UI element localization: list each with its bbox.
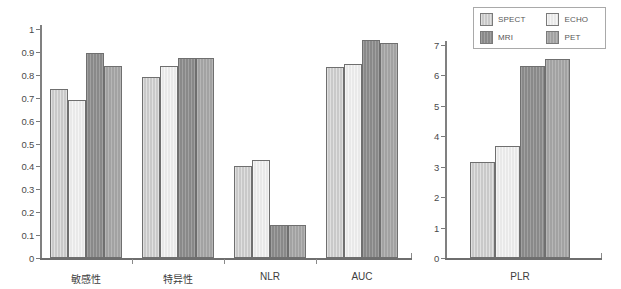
bar-spect-1 [142, 77, 160, 258]
left-chart-panel: 00.10.20.30.40.50.60.70.80.91 敏感性特异性NLRA… [0, 0, 420, 289]
legend-swatch-mri [480, 31, 493, 44]
y-tick-mark [36, 52, 40, 53]
y-tick-mark [36, 29, 40, 30]
y-tick-label: 6 [411, 70, 439, 81]
y-tick-label: 0.5 [6, 138, 34, 149]
bar-spect-3 [326, 67, 344, 258]
y-tick-mark [36, 144, 40, 145]
y-tick-mark [441, 167, 445, 168]
legend-swatch-spect [480, 13, 493, 26]
legend-label-spect: SPECT [498, 15, 526, 24]
x-separator-tick [224, 259, 225, 264]
legend-label-mri: MRI [498, 33, 513, 42]
bar-echo-0 [68, 100, 86, 258]
legend-swatch-echo [546, 13, 559, 26]
bar-mri-2 [270, 225, 288, 258]
legend-entry-spect: SPECT [480, 13, 536, 26]
left-y-axis [40, 25, 42, 260]
y-tick-mark [441, 75, 445, 76]
y-tick-label: 0.3 [6, 184, 34, 195]
y-tick-label: 0.4 [6, 161, 34, 172]
y-tick-mark [36, 189, 40, 190]
legend-label-echo: ECHO [564, 15, 588, 24]
y-tick-mark [441, 136, 445, 137]
x-tick-label: NLR [260, 271, 280, 282]
legend-label-pet: PET [564, 33, 580, 42]
y-tick-label: 0.8 [6, 69, 34, 80]
x-axis-end-tick [601, 253, 602, 258]
y-tick-label: 0.6 [6, 115, 34, 126]
bar-pet-2 [288, 225, 306, 258]
bar-echo-2 [252, 160, 270, 258]
bar-pet-0 [545, 59, 570, 258]
y-tick-mark [36, 75, 40, 76]
x-separator-tick [316, 259, 317, 264]
bar-pet-1 [196, 58, 214, 258]
bar-mri-0 [520, 66, 545, 258]
y-tick-label: 2 [411, 192, 439, 203]
y-tick-mark [36, 121, 40, 122]
y-tick-mark [441, 106, 445, 107]
y-tick-label: 1 [411, 222, 439, 233]
x-separator-tick [132, 259, 133, 264]
legend-entry-echo: ECHO [546, 13, 599, 26]
y-tick-label: 0.1 [6, 230, 34, 241]
y-tick-label: 5 [411, 100, 439, 111]
y-tick-label: 0 [411, 253, 439, 264]
x-tick-label: 特异性 [163, 271, 193, 286]
bar-spect-2 [234, 166, 252, 258]
y-tick-mark [36, 235, 40, 236]
grouped-bar-chart-figure: 00.10.20.30.40.50.60.70.80.91 敏感性特异性NLRA… [0, 0, 621, 289]
y-tick-label: 0.2 [6, 207, 34, 218]
bar-echo-1 [160, 66, 178, 258]
y-tick-mark [36, 166, 40, 167]
bar-spect-0 [470, 162, 495, 258]
x-tick-label: PLR [510, 271, 529, 282]
y-tick-label: 0 [6, 253, 34, 264]
y-tick-mark [441, 258, 445, 259]
legend-entry-mri: MRI [480, 31, 536, 44]
y-tick-label: 3 [411, 161, 439, 172]
legend-box: SPECTECHOMRIPET [473, 7, 606, 49]
right-x-axis [445, 258, 602, 260]
bar-mri-0 [86, 53, 104, 258]
bar-echo-0 [495, 146, 520, 258]
bar-mri-1 [178, 58, 196, 258]
legend-grid: SPECTECHOMRIPET [480, 13, 599, 44]
y-tick-label: 7 [411, 40, 439, 51]
left-x-axis [40, 258, 412, 260]
y-tick-mark [36, 98, 40, 99]
y-tick-mark [36, 258, 40, 259]
y-tick-mark [441, 197, 445, 198]
legend-swatch-pet [546, 31, 559, 44]
x-tick-label: 敏感性 [71, 271, 101, 286]
y-tick-mark [441, 228, 445, 229]
bar-pet-0 [104, 66, 122, 258]
bar-pet-3 [380, 43, 398, 258]
y-tick-mark [36, 212, 40, 213]
y-tick-mark [441, 45, 445, 46]
y-tick-label: 0.7 [6, 92, 34, 103]
y-tick-label: 4 [411, 131, 439, 142]
bar-mri-3 [362, 40, 380, 258]
right-y-axis [445, 41, 447, 260]
y-tick-label: 0.9 [6, 46, 34, 57]
y-tick-label: 1 [6, 24, 34, 35]
legend-entry-pet: PET [546, 31, 599, 44]
bar-spect-0 [50, 89, 68, 258]
bar-echo-3 [344, 64, 362, 258]
x-tick-label: AUC [351, 271, 372, 282]
